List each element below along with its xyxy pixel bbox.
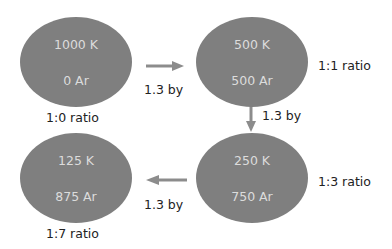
arrow-right-icon — [146, 61, 184, 71]
node-125k: 125 K 875 Ar — [20, 133, 132, 223]
node-250k: 250 K 750 Ar — [196, 133, 308, 223]
node-500k: 500 K 500 Ar — [196, 17, 308, 107]
node-top-text: 125 K — [20, 153, 132, 168]
ratio-label: 1:1 ratio — [318, 58, 371, 73]
node-bottom-text: 875 Ar — [20, 189, 132, 204]
ratio-label: 1:0 ratio — [46, 110, 99, 125]
node-top-text: 250 K — [196, 153, 308, 168]
node-top-text: 1000 K — [20, 37, 132, 52]
edge-label: 1.3 by — [144, 82, 183, 97]
node-top-text: 500 K — [196, 37, 308, 52]
node-bottom-text: 750 Ar — [196, 189, 308, 204]
edge-label: 1.3 by — [262, 108, 301, 123]
ratio-label: 1:3 ratio — [318, 174, 371, 189]
node-bottom-text: 500 Ar — [196, 73, 308, 88]
node-bottom-text: 0 Ar — [20, 73, 132, 88]
arrow-down-icon — [246, 105, 256, 132]
arrow-left-icon — [146, 175, 187, 185]
edge-label: 1.3 by — [144, 197, 183, 212]
ratio-label: 1:7 ratio — [46, 226, 99, 241]
node-1000k: 1000 K 0 Ar — [20, 17, 132, 107]
